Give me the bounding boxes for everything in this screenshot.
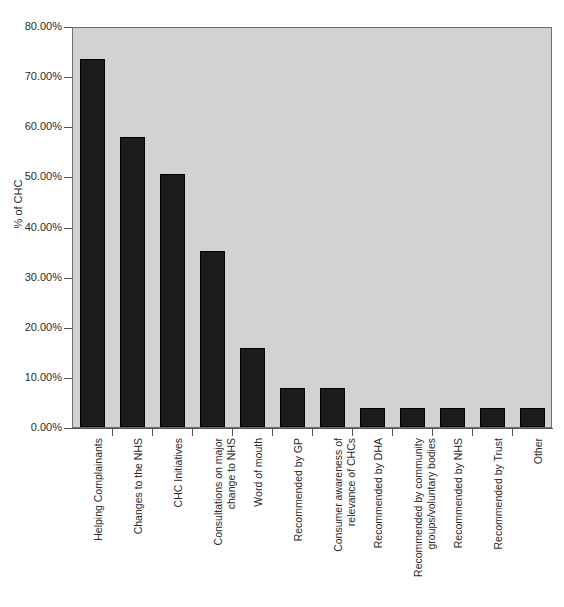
y-axis-tick-label: 80.00% bbox=[0, 21, 62, 32]
y-axis-tick-label: 30.00% bbox=[0, 272, 62, 283]
x-axis-tick-mark bbox=[192, 429, 193, 436]
x-axis-category-label: Recommended by Trust bbox=[472, 438, 512, 604]
x-axis-tick-mark bbox=[432, 429, 433, 436]
bar bbox=[240, 348, 265, 427]
y-axis-tick-label: 70.00% bbox=[0, 71, 62, 82]
x-axis-tick-mark bbox=[152, 429, 153, 436]
x-axis-category-label: Word of mouth bbox=[232, 438, 272, 604]
bar bbox=[160, 174, 185, 427]
x-axis-category-label: Recommended by communitygroups/voluntary… bbox=[392, 438, 432, 604]
x-axis-category-label-text: CHC Initiatives bbox=[172, 438, 185, 507]
x-axis-category-label: Other bbox=[512, 438, 552, 604]
bar bbox=[480, 408, 505, 427]
bar bbox=[440, 408, 465, 427]
bar bbox=[320, 388, 345, 427]
bar bbox=[520, 408, 545, 427]
y-axis-tick-mark bbox=[64, 177, 72, 178]
y-axis-tick-label: 10.00% bbox=[0, 372, 62, 383]
x-axis-category-label: Changes to the NHS bbox=[112, 438, 152, 604]
x-axis-tick-mark bbox=[392, 429, 393, 436]
y-axis-tick-label: 0.00% bbox=[0, 422, 62, 433]
x-axis-tick-mark bbox=[352, 429, 353, 436]
x-axis-category-label: Helping Complainants bbox=[72, 438, 112, 604]
bar bbox=[80, 59, 105, 427]
bars-layer bbox=[73, 28, 551, 427]
x-axis-tick-mark bbox=[312, 429, 313, 436]
x-axis-category-label-text: Word of mouth bbox=[252, 438, 265, 507]
x-axis-category-label-text: Recommended by GP bbox=[292, 438, 305, 541]
y-axis-tick-mark bbox=[64, 378, 72, 379]
x-axis-category-label-text: Helping Complainants bbox=[92, 438, 105, 541]
x-axis-category-label: Recommended by GP bbox=[272, 438, 312, 604]
y-axis-tick-mark bbox=[64, 77, 72, 78]
y-axis-tick-mark bbox=[64, 228, 72, 229]
x-axis-category-label-text: Recommended by NHS bbox=[452, 438, 465, 548]
bar bbox=[120, 137, 145, 427]
x-axis-tick-mark bbox=[232, 429, 233, 436]
y-axis-tick-label: 60.00% bbox=[0, 121, 62, 132]
bar-chart: % of CHC 0.00%10.00%20.00%30.00%40.00%50… bbox=[0, 0, 564, 607]
x-axis-category-label-text: Recommended by Trust bbox=[492, 438, 505, 549]
plot-area bbox=[72, 27, 552, 428]
y-axis-tick-mark bbox=[64, 27, 72, 28]
bar bbox=[280, 388, 305, 427]
bar bbox=[200, 251, 225, 427]
x-axis-category-label: Consumer awareness ofrelevance of CHCs bbox=[312, 438, 352, 604]
x-axis-category-label-text: Changes to the NHS bbox=[132, 438, 145, 534]
x-axis-category-label: Recommended by NHS bbox=[432, 438, 472, 604]
x-axis-category-labels: Helping ComplainantsChanges to the NHSCH… bbox=[0, 438, 564, 607]
x-axis-category-label-text: Other bbox=[532, 438, 545, 464]
y-axis-tick-mark bbox=[64, 127, 72, 128]
x-axis-category-label: CHC Initiatives bbox=[152, 438, 192, 604]
y-axis-tick-label: 20.00% bbox=[0, 322, 62, 333]
x-axis-category-label: Consultations on majorchange to NHS bbox=[192, 438, 232, 604]
x-axis-tick-mark bbox=[272, 429, 273, 436]
bar bbox=[400, 408, 425, 427]
x-axis-category-label-text: Recommended by DHA bbox=[372, 438, 385, 548]
x-axis-line bbox=[64, 428, 553, 429]
y-axis-tick-mark bbox=[64, 278, 72, 279]
bar bbox=[360, 408, 385, 427]
x-axis-tick-mark bbox=[472, 429, 473, 436]
x-axis-tick-mark bbox=[512, 429, 513, 436]
y-axis-tick-labels: 0.00%10.00%20.00%30.00%40.00%50.00%60.00… bbox=[0, 0, 62, 440]
y-axis-tick-mark bbox=[64, 328, 72, 329]
y-axis-tick-label: 40.00% bbox=[0, 222, 62, 233]
y-axis-tick-label: 50.00% bbox=[0, 171, 62, 182]
x-axis-tick-mark bbox=[112, 429, 113, 436]
x-axis-category-label: Recommended by DHA bbox=[352, 438, 392, 604]
